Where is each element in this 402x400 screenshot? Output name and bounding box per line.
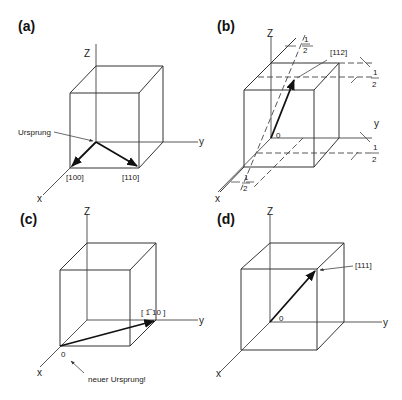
vector-100 <box>72 142 96 166</box>
x-axis-label: x <box>216 368 221 379</box>
panel-b: (b) Z y x 0 <box>215 18 379 204</box>
vector-110 <box>96 142 137 166</box>
origin-label: 0 <box>61 350 66 359</box>
y-axis-label: y <box>374 118 379 129</box>
fraction-top: 1 2 <box>302 35 310 55</box>
fraction-right-bottom: 1 2 <box>371 143 379 164</box>
z-axis-label: Z <box>267 206 273 217</box>
dimension-arrows <box>231 46 370 182</box>
x-axis-label: x <box>37 367 42 378</box>
vector-111 <box>270 271 315 322</box>
svg-text:2: 2 <box>303 46 308 55</box>
vector-label-110: [110] <box>122 173 139 182</box>
svg-text:2: 2 <box>372 80 377 89</box>
x-axis-label: x <box>37 193 42 204</box>
unit-cube <box>70 66 163 168</box>
origin-label: 0 <box>279 314 284 323</box>
svg-text:1: 1 <box>373 68 378 77</box>
panel-a: (a) Z y x [100] [110] Ursprung <box>18 18 204 204</box>
origin-label: Ursprung <box>18 128 51 137</box>
crystal-directions-figure: (a) Z y x [100] [110] Ursprung (b) <box>0 0 402 400</box>
x-axis <box>40 320 87 367</box>
svg-text:1: 1 <box>304 35 309 44</box>
y-axis-label: y <box>199 315 204 326</box>
z-axis-label: Z <box>267 28 273 39</box>
vector-label-neg110: [ 1̅ 10 ] <box>141 308 165 317</box>
y-axis-label: y <box>383 317 388 328</box>
vector-label-100: [100] <box>66 173 84 182</box>
svg-text:1: 1 <box>373 143 378 152</box>
vector-label-112: [112] <box>330 48 347 57</box>
svg-text:1: 1 <box>244 173 249 182</box>
vector-label-111: [111] <box>355 261 372 270</box>
panel-label-c: (c) <box>20 211 37 227</box>
panel-label-a: (a) <box>18 18 35 34</box>
new-origin-arrow <box>71 361 84 373</box>
vector-111-leader <box>320 266 353 270</box>
x-axis <box>220 322 270 372</box>
origin-leader-arrow <box>54 132 93 141</box>
panel-label-b: (b) <box>217 18 235 34</box>
svg-text:2: 2 <box>243 184 248 193</box>
y-axis-label: y <box>199 136 204 147</box>
z-axis-label: Z <box>84 48 90 59</box>
panel-label-d: (d) <box>217 211 235 227</box>
z-axis-label: Z <box>84 206 90 217</box>
svg-text:2: 2 <box>372 155 377 164</box>
origin-label: 0 <box>276 131 281 140</box>
unit-cube <box>60 243 156 346</box>
new-origin-note: neuer Ursprung! <box>88 375 146 384</box>
half-construction-lines <box>240 35 372 192</box>
fraction-bottom-left: 1 2 <box>242 173 250 193</box>
fraction-right-top: 1 2 <box>371 68 379 89</box>
x-axis-label: x <box>215 193 220 204</box>
panel-c: (c) Z y x [ 1̅ 10 ] 0 neuer Ursprung! <box>20 206 204 384</box>
panel-d: (d) Z y x [111] 0 <box>216 206 388 379</box>
